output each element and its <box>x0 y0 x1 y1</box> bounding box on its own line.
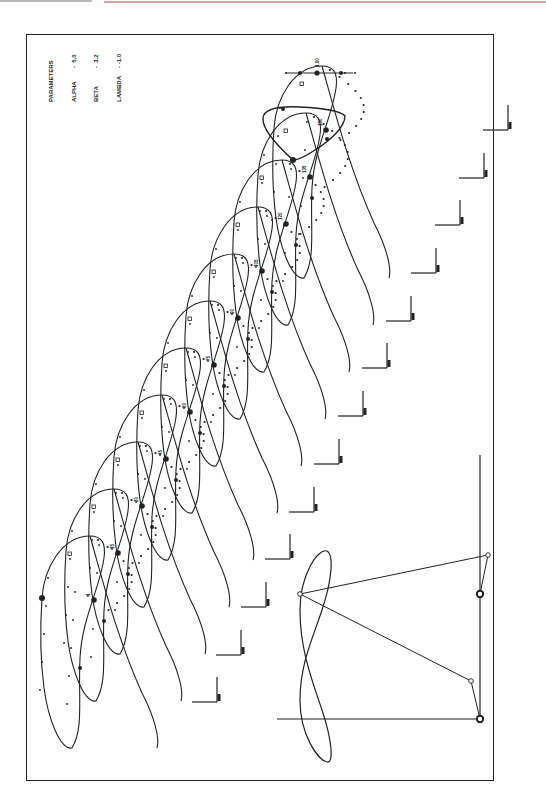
loop-tick <box>41 661 43 663</box>
loop-curve <box>185 254 249 466</box>
loop-tick <box>288 196 290 198</box>
inner-dot <box>122 560 124 562</box>
loop-curve <box>137 348 201 560</box>
loop-tick <box>260 299 262 301</box>
scale-tick <box>354 72 356 74</box>
loop-tick <box>87 595 89 597</box>
ground-pivot <box>477 591 483 597</box>
inner-dot <box>347 83 349 85</box>
inner-dot <box>121 492 123 494</box>
axis-mark-label <box>461 217 464 224</box>
inner-dot <box>241 257 243 259</box>
axis-mark-label <box>291 551 294 558</box>
loop-tick <box>68 675 70 677</box>
position-marker <box>126 572 130 576</box>
inner-dot <box>313 116 315 118</box>
crank-lower <box>471 681 480 719</box>
inner-dot <box>308 226 310 228</box>
inner-dot <box>236 367 238 369</box>
square-marker <box>140 411 144 415</box>
loop-curve <box>89 442 153 654</box>
loop-tick <box>39 689 41 691</box>
loop-label: 120 <box>278 212 283 220</box>
loop-tick <box>115 492 117 494</box>
loop-tick <box>111 548 113 550</box>
coupler-loop-sequence: 1153045607590105120135150 <box>39 66 390 748</box>
loop-tick <box>146 450 148 452</box>
axis-mark <box>265 534 294 559</box>
inner-dot <box>170 466 172 468</box>
inner-dot <box>355 125 357 127</box>
loop-tick <box>271 219 273 221</box>
loop-curve <box>209 207 273 419</box>
loop-tick <box>218 309 220 311</box>
axis-mark-label <box>267 599 270 606</box>
loop-tick <box>263 154 265 156</box>
axis-mark <box>386 296 415 321</box>
inner-dot <box>344 165 346 167</box>
loop-tick <box>70 647 72 649</box>
loop-label: 30 <box>134 496 139 502</box>
inner-dot <box>203 433 205 435</box>
inner-dot <box>218 372 220 374</box>
position-marker <box>307 174 313 180</box>
axis-mark <box>459 153 488 178</box>
loop-tick <box>137 473 139 475</box>
loop-label: 60 <box>182 402 187 408</box>
crank-joint <box>469 679 474 684</box>
top-loop-marker <box>290 157 296 163</box>
inner-dot <box>265 210 267 212</box>
loop-tick <box>273 191 275 193</box>
inner-dot <box>360 118 362 120</box>
inner-dot <box>332 179 334 181</box>
loop-curve <box>41 536 105 748</box>
position-marker <box>323 127 329 133</box>
inner-dot <box>348 132 350 134</box>
loop-tick <box>233 285 235 287</box>
loop-tick <box>161 426 163 428</box>
inner-dot <box>227 393 229 395</box>
square-marker <box>300 82 304 86</box>
inner-dot <box>339 139 341 141</box>
inner-dot <box>272 306 274 308</box>
inner-dot <box>123 595 125 597</box>
loop-tick <box>262 271 264 273</box>
loop-tick <box>189 323 191 325</box>
inner-dot <box>212 414 214 416</box>
position-marker <box>174 478 178 482</box>
loop-tick <box>140 534 142 536</box>
loop-tick <box>143 389 145 391</box>
loop-tick <box>163 398 165 400</box>
inner-dot <box>179 480 181 482</box>
loop-tick <box>141 417 143 419</box>
loop-tick <box>212 393 214 395</box>
inner-dot <box>354 90 356 92</box>
loop-tick <box>214 365 216 367</box>
inner-dot <box>338 137 340 139</box>
loop-tick <box>69 558 71 560</box>
loop-label: 150 <box>318 118 323 126</box>
inner-dot <box>145 445 147 447</box>
inner-dot <box>315 219 317 221</box>
loop-label: 45 <box>158 449 163 455</box>
square-marker <box>164 364 168 368</box>
loop-tick <box>65 614 67 616</box>
coupler-loop: 150 <box>271 66 390 278</box>
inner-dot <box>242 325 244 327</box>
axis-mark-label <box>412 313 415 320</box>
loop-tick <box>240 290 242 292</box>
loop-tick <box>118 553 120 555</box>
ground-pivot <box>477 716 483 722</box>
loop-tick <box>72 619 74 621</box>
inner-dot <box>360 97 362 99</box>
loop-tick <box>190 412 192 414</box>
inner-dot <box>224 400 226 402</box>
inner-dot <box>176 494 178 496</box>
loop-tick <box>94 600 96 602</box>
position-marker <box>102 619 106 623</box>
crank-upper <box>480 555 488 594</box>
inner-dot <box>107 609 109 611</box>
inner-dot <box>146 513 148 515</box>
inner-dot <box>275 292 277 294</box>
loop-tick <box>290 168 292 170</box>
